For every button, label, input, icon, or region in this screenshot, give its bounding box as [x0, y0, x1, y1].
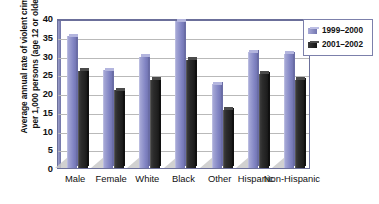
bar-side-face: [195, 58, 197, 166]
bar-side-face: [268, 72, 270, 167]
bar-top-face: [69, 34, 78, 37]
bars-layer: [58, 20, 309, 168]
bar-group: [130, 20, 166, 168]
bar-group: [94, 20, 130, 168]
bar-chart: Average annual rate of violent crimes pe…: [0, 0, 379, 204]
bar-top-face: [296, 77, 305, 80]
x-axis-tick-label: Female: [96, 173, 127, 184]
legend-swatch-top: [310, 27, 319, 29]
bar-group: [166, 20, 202, 168]
bar-group: [239, 20, 275, 168]
bar[interactable]: [212, 84, 221, 168]
bar-top-face: [80, 68, 89, 71]
y-axis-tick-label: 5: [31, 145, 53, 155]
bar-top-face: [177, 19, 186, 22]
bar-top-face: [152, 77, 161, 80]
legend: 1999–20002001–2002: [303, 19, 373, 56]
bar[interactable]: [186, 60, 195, 168]
plot-area: [57, 19, 310, 169]
bar-top-face: [105, 68, 114, 71]
x-axis-tick-label: Black: [172, 173, 195, 184]
bar-side-face: [232, 108, 234, 167]
legend-label: 2001–2002: [322, 40, 363, 49]
bar-top-face: [141, 54, 150, 57]
bar[interactable]: [67, 36, 76, 168]
bar-top-face: [188, 57, 197, 60]
x-axis-tick-label: White: [135, 173, 159, 184]
bar[interactable]: [259, 74, 268, 169]
legend-item[interactable]: 1999–2000: [308, 24, 369, 37]
bar-top-face: [260, 71, 269, 74]
y-axis-tick-label: 30: [31, 52, 53, 62]
bar-group: [203, 20, 239, 168]
bar-top-face: [285, 51, 294, 54]
x-axis-tick-label: Male: [65, 173, 85, 184]
bar-top-face: [224, 107, 233, 110]
bar-side-face: [159, 78, 161, 166]
bar[interactable]: [103, 70, 112, 168]
bar-side-face: [87, 69, 89, 166]
y-axis-tick-label: 40: [31, 14, 53, 24]
legend-swatch-icon: [308, 27, 318, 34]
y-axis-title-line-1: Average annual rate of violent crimes: [19, 0, 30, 133]
bar-group: [58, 20, 94, 168]
bar[interactable]: [139, 57, 148, 168]
bar[interactable]: [114, 90, 123, 168]
bar-side-face: [123, 88, 125, 166]
y-axis-tick-label: 20: [31, 89, 53, 99]
y-axis-tick-label: 0: [31, 164, 53, 174]
bar-side-face: [304, 78, 306, 166]
y-axis-tick-label: 35: [31, 33, 53, 43]
bar-top-face: [213, 82, 222, 85]
bar[interactable]: [295, 80, 304, 168]
y-axis-tick-labels: 0510152025303540: [31, 13, 53, 169]
bar-top-face: [249, 50, 258, 53]
bar-top-face: [116, 88, 125, 91]
y-axis-tick-label: 15: [31, 108, 53, 118]
y-axis-tick-label: 25: [31, 70, 53, 80]
y-axis-tick-label: 10: [31, 127, 53, 137]
bar[interactable]: [175, 21, 184, 168]
legend-item[interactable]: 2001–2002: [308, 38, 369, 51]
legend-label: 1999–2000: [322, 26, 363, 35]
bar[interactable]: [248, 52, 257, 168]
legend-swatch-icon: [308, 41, 318, 48]
bar[interactable]: [150, 80, 159, 168]
x-axis-tick-label: Non-Hispanic: [264, 173, 320, 184]
x-axis-tick-label: Other: [208, 173, 231, 184]
legend-swatch-top: [310, 41, 319, 43]
bar[interactable]: [223, 110, 232, 169]
x-axis-tick-labels: MaleFemaleWhiteBlackOtherHispanicNon-His…: [57, 173, 327, 189]
bar[interactable]: [78, 71, 87, 168]
bar[interactable]: [284, 54, 293, 168]
